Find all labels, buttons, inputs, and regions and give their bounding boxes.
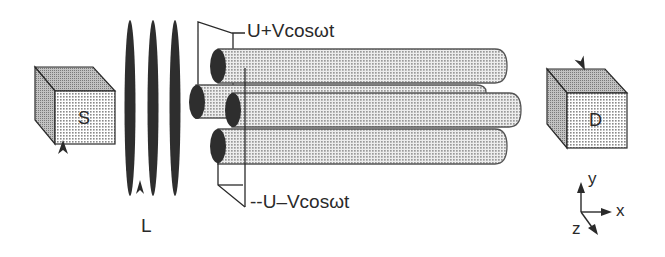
x-arrow-icon (601, 208, 612, 216)
rod-right (225, 93, 521, 127)
einzel-lens (125, 20, 181, 196)
lens-label: L (141, 216, 152, 235)
axis-x-label: x (616, 202, 625, 219)
detector-label: D (589, 111, 602, 129)
coordinate-axes (577, 182, 612, 235)
rod-top (210, 49, 507, 83)
axis-y-label: y (588, 170, 597, 187)
voltage-negative-label: --U–Vcosωt (250, 192, 349, 211)
lens-arrow-icon (136, 180, 144, 194)
y-arrow-icon (577, 182, 585, 193)
quadrupole-rods (189, 49, 521, 164)
source-cube (35, 67, 115, 154)
detector-cube (547, 56, 627, 148)
z-arrow-icon (588, 224, 598, 235)
source-label: S (78, 109, 90, 127)
rod-bottom (210, 129, 507, 164)
axis-z-label: z (572, 220, 581, 237)
voltage-positive-label: U+Vcosωt (247, 21, 334, 40)
